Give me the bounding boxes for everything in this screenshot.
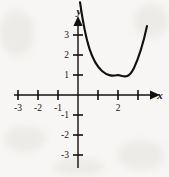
parabola-curve [80, 2, 147, 76]
parabola-figure: x y -3 -2 -1 2 3 2 1 -1 -2 -3 [0, 0, 169, 177]
y-tick-label-neg2: -2 [61, 130, 69, 140]
x-axis-label: x [156, 89, 163, 101]
y-tick-label-pos1: 1 [64, 70, 69, 80]
x-tick-label-neg3: -3 [14, 103, 22, 113]
y-tick-label-pos3: 3 [64, 30, 69, 40]
x-tick-label-pos2: 2 [116, 103, 121, 113]
y-tick-label-pos2: 2 [64, 50, 69, 60]
y-tick-label-neg1: -1 [61, 110, 69, 120]
x-tick-label-neg2: -2 [34, 103, 42, 113]
coordinate-plot: x y -3 -2 -1 2 3 2 1 -1 -2 -3 [0, 0, 169, 177]
y-axis-arrowhead [73, 16, 82, 26]
y-axis-label: y [75, 5, 82, 17]
y-tick-label-neg3: -3 [61, 150, 69, 160]
